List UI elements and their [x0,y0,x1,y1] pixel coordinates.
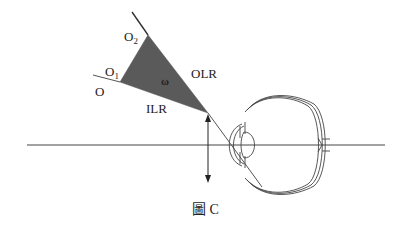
label-o2: O2 [124,29,138,46]
eye-optics-diagram: O2 O1 O ω OLR ILR 圖 C [0,0,406,231]
label-olr: OLR [191,66,217,81]
o2-extension-line [132,12,148,35]
label-o1: O1 [105,64,119,81]
double-arrow-lens [205,114,211,183]
label-omega: ω [161,75,169,87]
figure-caption: 圖 C [192,202,219,217]
label-o: O [95,84,104,99]
label-ilr: ILR [146,101,167,116]
